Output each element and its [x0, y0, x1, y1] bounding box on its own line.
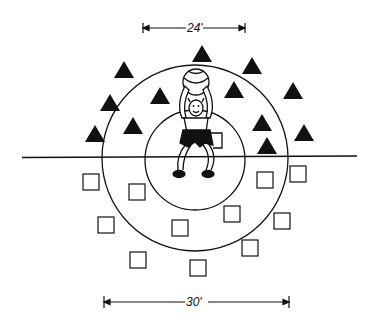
square-player-icon [190, 260, 206, 276]
triangle-player-icon [100, 94, 120, 111]
square-player-icon [224, 206, 240, 222]
triangle-player-icon [242, 57, 262, 74]
square-player-icon [242, 240, 258, 256]
triangle-player-icon [85, 125, 105, 142]
head [189, 100, 203, 116]
triangle-player-icon [150, 87, 170, 104]
game-field-diagram: 24' [0, 0, 373, 330]
square-player-icon [129, 184, 145, 200]
square-team [83, 166, 306, 276]
triangle-player-icon [283, 82, 303, 99]
square-player-icon [98, 217, 114, 233]
square-player-icon [290, 166, 306, 182]
square-player-icon [83, 174, 99, 190]
triangle-player-icon [114, 61, 134, 78]
outer-diameter-label: 30' [186, 295, 202, 309]
triangle-player-icon [123, 117, 143, 134]
inner-diameter-label: 24' [186, 21, 203, 35]
square-player-icon [130, 252, 146, 268]
square-player-icon [257, 172, 273, 188]
player-figure [173, 69, 222, 178]
triangle-player-icon [224, 81, 244, 98]
square-player-icon [274, 213, 290, 229]
center-line [22, 156, 357, 158]
triangle-player-icon [192, 45, 212, 62]
triangle-player-icon [257, 137, 277, 154]
triangle-player-icon [294, 124, 314, 141]
square-player-icon [172, 220, 188, 236]
triangle-player-icon [252, 114, 272, 131]
